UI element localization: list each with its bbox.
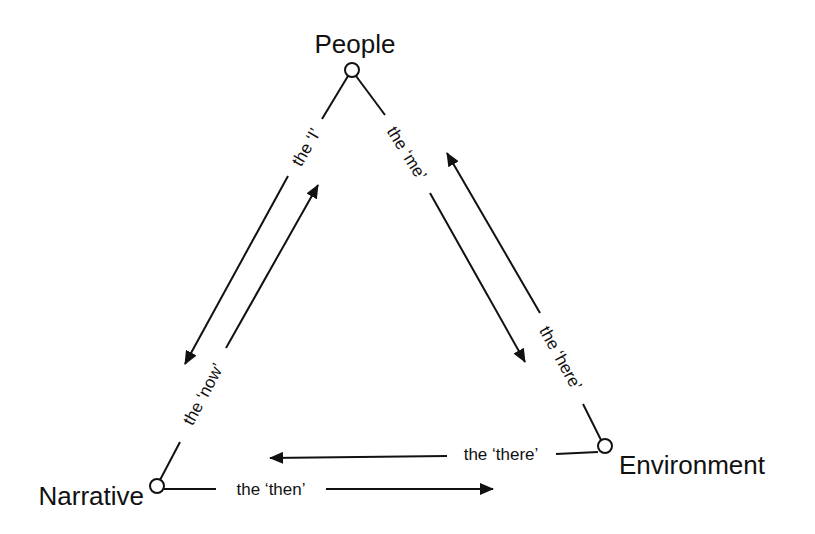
arrow-down-left-icon: [185, 176, 288, 364]
edge-line: [160, 442, 180, 480]
node-environment: Environment: [598, 439, 766, 480]
node-circle-icon: [150, 479, 164, 493]
node-label-people: People: [315, 29, 396, 59]
edge-line: [322, 76, 348, 119]
node-label-environment: Environment: [619, 450, 766, 480]
edge-line: [583, 404, 601, 440]
edge-label-the-then: the ‘then’: [237, 480, 306, 499]
node-narrative: Narrative: [39, 479, 164, 511]
edge-label-the-now: the ‘now’: [179, 360, 227, 428]
arrow-up-left-icon: [447, 153, 540, 313]
node-people: People: [315, 29, 396, 77]
edge-the-here: the ‘here’: [447, 153, 601, 440]
node-circle-icon: [598, 439, 612, 453]
edge-label-the-i: the ‘I’: [288, 125, 325, 170]
edge-the-i: the ‘I’: [185, 76, 348, 364]
edge-label-the-me: the ‘me’: [383, 123, 431, 184]
edge-line: [356, 76, 385, 115]
edge-the-me: the ‘me’: [356, 76, 525, 362]
edge-the-now: the ‘now’: [160, 185, 318, 480]
people-narrative-environment-diagram: the ‘I’ the ‘now’ the ‘me’ the ‘here’ th…: [0, 0, 815, 534]
edge-label-the-here: the ‘here’: [535, 323, 586, 393]
node-label-narrative: Narrative: [39, 481, 144, 511]
node-circle-icon: [345, 63, 359, 77]
edge-line: [556, 452, 598, 454]
edge-the-there: the ‘there’: [270, 445, 598, 464]
edge-label-the-there: the ‘there’: [464, 445, 539, 464]
arrow-left-icon: [270, 456, 447, 458]
arrow-down-right-icon: [430, 193, 525, 362]
arrow-up-right-icon: [226, 185, 318, 348]
edge-the-then: the ‘then’: [164, 480, 493, 499]
